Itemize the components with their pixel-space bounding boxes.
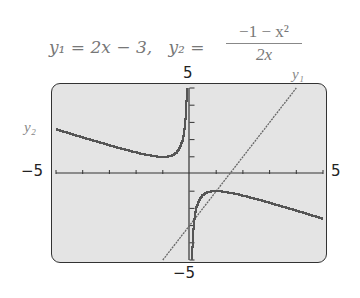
series-y2-right-branch [192,191,323,260]
series-y1-line [163,88,296,260]
series-y2-left-branch [56,88,187,157]
axes [56,88,323,260]
plot-area [0,0,360,298]
